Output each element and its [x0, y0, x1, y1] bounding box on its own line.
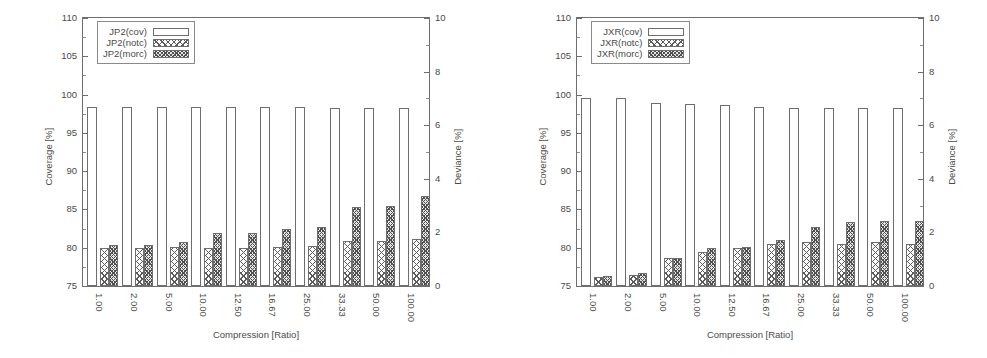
x-axis-tick-label: 25.00 [796, 293, 806, 317]
y-axis-minor-tick-left [577, 267, 580, 268]
x-axis-tick-label: 16.67 [762, 293, 772, 317]
bar-cov [157, 107, 167, 286]
y-axis-tick-left [577, 286, 582, 287]
y-axis-tick-label-left: 90 [66, 166, 77, 176]
y-axis-tick-right [424, 18, 429, 19]
legend: JP2(cov)JP2(notc)JP2(morc) [97, 21, 195, 64]
y-axis-tick-right [424, 179, 429, 180]
y-axis-tick-left [83, 286, 88, 287]
bar-notc [837, 244, 846, 286]
chart-panel-jp2: Coverage [%] Deviance [%] Compression [R… [0, 0, 493, 358]
y-axis-title-deviance: Deviance [%] [947, 129, 957, 185]
y-axis-tick-label-right: 8 [929, 67, 934, 77]
legend-row: JXR(morc) [597, 48, 684, 59]
bar-morc [811, 227, 820, 286]
bar-morc [248, 233, 257, 286]
legend-label: JP2(cov) [109, 27, 146, 37]
bar-cov [789, 108, 799, 286]
bar-notc [767, 244, 776, 286]
bar-morc [846, 222, 855, 286]
legend-swatch-cov [648, 28, 684, 36]
bar-morc [638, 273, 647, 286]
legend-label: JXR(morc) [597, 49, 642, 59]
y-axis-tick-left [83, 56, 88, 57]
y-axis-tick-right [424, 125, 429, 126]
x-axis-title-compression: Compression [Ratio] [576, 330, 924, 340]
y-axis-tick-right [424, 286, 429, 287]
bar-notc [135, 248, 144, 286]
legend-swatch-morc [648, 50, 684, 58]
bar-cov [295, 107, 305, 286]
y-axis-tick-label-right: 2 [435, 227, 440, 237]
y-axis-title-coverage: Coverage [%] [538, 128, 548, 186]
y-axis-tick-label-left: 95 [66, 128, 77, 138]
legend-swatch-cov [153, 28, 189, 36]
y-axis-tick-label-left: 100 [555, 90, 571, 100]
y-axis-tick-label-right: 4 [435, 174, 440, 184]
bar-cov [399, 108, 409, 286]
y-axis-tick-right [918, 18, 923, 19]
plot-frame: 758085909510010511002468101.002.005.0010… [576, 17, 924, 287]
bar-morc [352, 207, 361, 286]
y-axis-tick-label-left: 110 [62, 13, 77, 23]
chart-panel-jxr: Coverage [%] Deviance [%] Compression [R… [494, 0, 987, 358]
y-axis-minor-tick-right [920, 206, 923, 207]
legend-label: JP2(notc) [106, 38, 147, 48]
y-axis-tick-label-right: 8 [435, 67, 440, 77]
bar-cov [364, 108, 374, 286]
bar-morc [317, 227, 326, 286]
x-axis-tick-label: 12.50 [727, 293, 737, 317]
y-axis-tick-label-left: 75 [66, 281, 77, 291]
y-axis-tick-left [83, 95, 88, 96]
x-axis-tick-label: 33.33 [337, 293, 347, 317]
bar-cov [330, 108, 340, 286]
bar-notc [412, 239, 421, 286]
bar-morc [915, 221, 924, 286]
y-axis-minor-tick-left [83, 229, 86, 230]
bar-notc [871, 242, 880, 286]
figure-two-panel-bar-charts: Coverage [%] Deviance [%] Compression [R… [0, 0, 987, 358]
bar-morc [144, 245, 153, 286]
y-axis-tick-left [577, 56, 582, 57]
plot-frame: 758085909510010511002468101.002.005.0010… [82, 17, 430, 287]
bar-morc [213, 233, 222, 286]
bar-morc [109, 245, 118, 286]
y-axis-minor-tick-left [83, 152, 86, 153]
y-axis-minor-tick-left [577, 229, 580, 230]
bar-notc [100, 248, 109, 286]
bar-morc [603, 276, 612, 286]
bar-cov [893, 108, 903, 286]
y-axis-tick-label-right: 10 [929, 13, 940, 23]
y-axis-tick-right [918, 179, 923, 180]
y-axis-tick-label-left: 105 [61, 51, 77, 61]
x-axis-tick-label: 10.00 [693, 293, 703, 317]
x-axis-tick-label: 10.00 [199, 293, 209, 317]
legend-row: JP2(cov) [103, 26, 189, 37]
bar-cov [720, 105, 730, 286]
bar-morc [742, 247, 751, 286]
y-axis-minor-tick-right [920, 152, 923, 153]
bar-notc [733, 248, 742, 286]
bar-morc [386, 206, 395, 286]
bar-notc [594, 277, 603, 286]
y-axis-minor-tick-left [83, 114, 86, 115]
y-axis-minor-tick-left [83, 75, 86, 76]
y-axis-minor-tick-right [920, 98, 923, 99]
x-axis-tick-label: 1.00 [589, 293, 599, 312]
legend-row: JP2(notc) [103, 37, 189, 48]
y-axis-tick-label-left: 85 [560, 204, 571, 214]
y-axis-tick-label-right: 10 [435, 13, 446, 23]
y-axis-tick-label-left: 80 [66, 243, 77, 253]
bar-cov [122, 107, 132, 286]
y-axis-tick-right [918, 72, 923, 73]
y-axis-tick-label-left: 80 [560, 243, 571, 253]
x-axis-tick-label: 100.00 [900, 293, 910, 322]
y-axis-minor-tick-left [577, 190, 580, 191]
bar-morc [707, 248, 716, 286]
legend-label: JXR(notc) [600, 38, 642, 48]
x-axis-tick-label: 5.00 [164, 293, 174, 312]
bar-notc [802, 242, 811, 286]
y-axis-minor-tick-left [577, 75, 580, 76]
bar-morc [179, 242, 188, 286]
bar-notc [629, 275, 638, 286]
